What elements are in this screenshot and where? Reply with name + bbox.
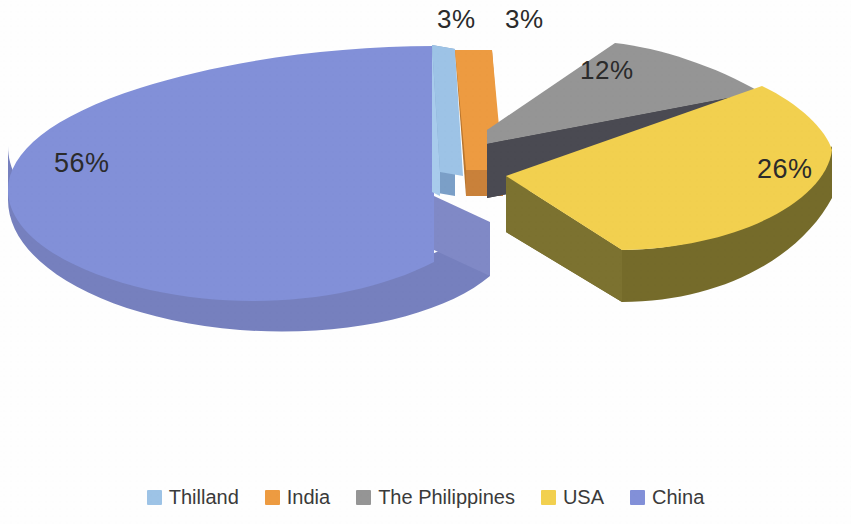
chart-plot-area: 56% 26% 12% 3% 3% (0, 0, 851, 470)
legend-swatch-philippines (356, 490, 371, 505)
legend-item-usa[interactable]: USA (541, 487, 604, 507)
legend-label-thilland: Thilland (169, 487, 239, 507)
legend-swatch-india (265, 490, 280, 505)
legend-label-usa: USA (563, 487, 604, 507)
legend-swatch-usa (541, 490, 556, 505)
legend-item-thilland[interactable]: Thilland (147, 487, 239, 507)
data-label-philippines: 12% (580, 57, 634, 83)
data-label-china: 56% (54, 150, 110, 177)
legend-item-philippines[interactable]: The Philippines (356, 487, 515, 507)
legend-item-china[interactable]: China (630, 487, 704, 507)
chart-legend: Thilland India The Philippines USA China (0, 487, 851, 507)
pie-chart-graphic (0, 0, 851, 470)
pie-chart-figure: 56% 26% 12% 3% 3% Thilland India The Phi… (0, 0, 851, 524)
pie-slice-china[interactable] (8, 46, 490, 332)
legend-label-china: China (652, 487, 704, 507)
legend-label-philippines: The Philippines (378, 487, 515, 507)
data-label-usa: 26% (757, 156, 813, 183)
legend-label-india: India (287, 487, 330, 507)
data-label-india: 3% (505, 6, 544, 32)
data-label-thilland: 3% (437, 6, 476, 32)
legend-swatch-thilland (147, 490, 162, 505)
legend-swatch-china (630, 490, 645, 505)
legend-item-india[interactable]: India (265, 487, 330, 507)
